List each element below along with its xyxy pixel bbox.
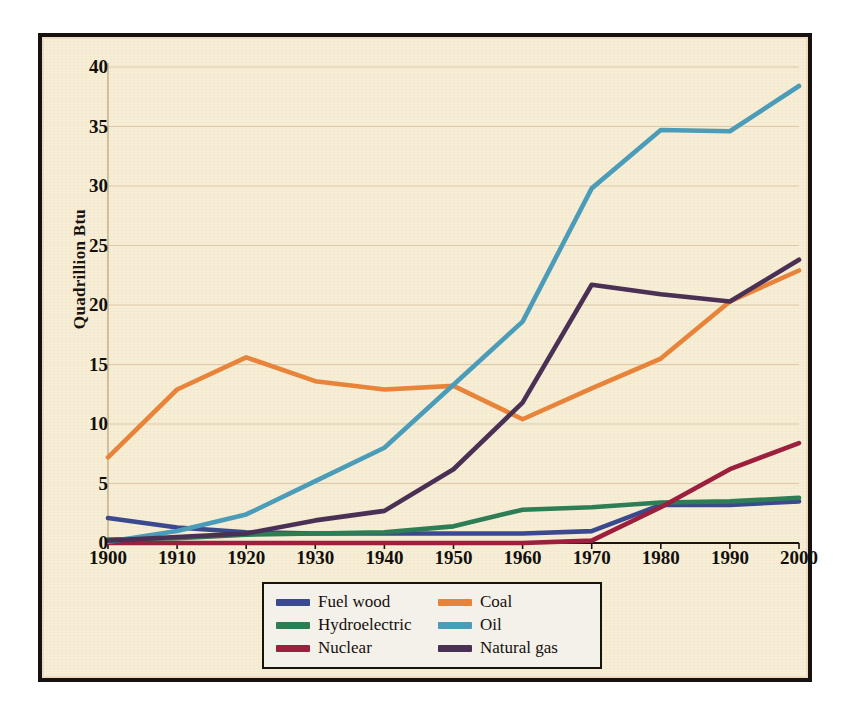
x-tick-label-1910: 1910 xyxy=(142,547,212,569)
x-axis-tick-labels: 1900191019201930194019501960197019801990… xyxy=(42,547,808,577)
x-tick-label-1980: 1980 xyxy=(626,547,696,569)
y-tick-label-5: 5 xyxy=(62,473,108,495)
y-tick-label-10: 10 xyxy=(62,413,108,435)
series-line-oil xyxy=(108,86,799,542)
x-tick-label-1920: 1920 xyxy=(211,547,281,569)
legend-swatch-icon xyxy=(276,599,310,606)
legend-swatch-icon xyxy=(438,599,472,606)
x-tick-label-1950: 1950 xyxy=(419,547,489,569)
legend-label: Nuclear xyxy=(318,638,372,658)
y-axis-tick-labels: 0510152025303540 xyxy=(56,37,108,678)
legend-label: Fuel wood xyxy=(318,592,390,612)
y-tick-label-35: 35 xyxy=(62,116,108,138)
figure-frame: Quadrillion Btu 0510152025303540 1900191… xyxy=(38,33,812,682)
x-tick-label-1990: 1990 xyxy=(695,547,765,569)
legend-entry-oil[interactable]: Oil xyxy=(438,615,588,635)
legend-swatch-icon xyxy=(276,622,310,629)
chart-page: Quadrillion Btu 0510152025303540 1900191… xyxy=(0,0,860,718)
legend-entry-coal[interactable]: Coal xyxy=(438,592,588,612)
legend-label: Oil xyxy=(480,615,502,635)
x-tick-label-1900: 1900 xyxy=(73,547,143,569)
x-tick-label-1960: 1960 xyxy=(488,547,558,569)
x-tick-label-1930: 1930 xyxy=(280,547,350,569)
legend-entry-fuel-wood[interactable]: Fuel wood xyxy=(276,592,426,612)
series-line-natural-gas xyxy=(108,260,799,541)
x-tick-label-1970: 1970 xyxy=(557,547,627,569)
legend-swatch-icon xyxy=(438,645,472,652)
legend-swatch-icon xyxy=(438,622,472,629)
y-tick-label-25: 25 xyxy=(62,235,108,257)
y-tick-label-15: 15 xyxy=(62,354,108,376)
legend-label: Coal xyxy=(480,592,512,612)
chart-legend: Fuel woodCoalHydroelectricOilNuclearNatu… xyxy=(262,582,602,669)
legend-entry-hydroelectric[interactable]: Hydroelectric xyxy=(276,615,426,635)
y-tick-label-20: 20 xyxy=(62,294,108,316)
series-line-fuel-wood xyxy=(108,501,799,533)
y-tick-label-30: 30 xyxy=(62,175,108,197)
legend-label: Natural gas xyxy=(480,638,558,658)
x-tick-label-2000: 2000 xyxy=(764,547,834,569)
legend-entry-nuclear[interactable]: Nuclear xyxy=(276,638,426,658)
legend-entry-natural-gas[interactable]: Natural gas xyxy=(438,638,588,658)
x-tick-label-1940: 1940 xyxy=(349,547,419,569)
legend-swatch-icon xyxy=(276,645,310,652)
data-series-group xyxy=(108,86,799,543)
legend-label: Hydroelectric xyxy=(318,615,411,635)
y-tick-label-40: 40 xyxy=(62,56,108,78)
